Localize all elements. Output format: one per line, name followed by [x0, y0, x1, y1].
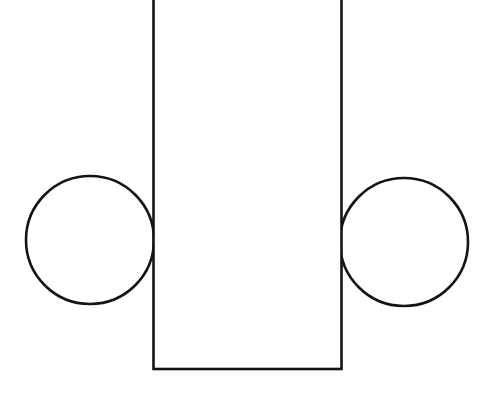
- geometric-figure-svg: [0, 0, 480, 396]
- figure-canvas: [0, 0, 480, 396]
- vertical-rectangle: [154, 0, 342, 369]
